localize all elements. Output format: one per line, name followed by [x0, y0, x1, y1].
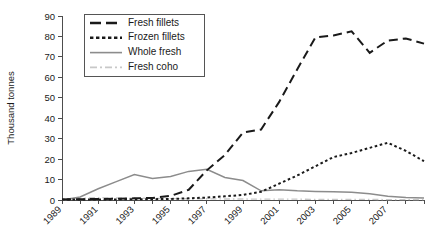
x-tick-label: 1991 — [77, 204, 100, 227]
series-line-whole-fresh — [62, 169, 424, 200]
legend-label: Whole fresh — [128, 46, 181, 57]
y-tick-label: 50 — [44, 92, 55, 103]
x-tick-label: 2007 — [366, 204, 389, 227]
y-tick-label: 40 — [44, 113, 55, 124]
y-tick-label: 10 — [44, 174, 55, 185]
chart-canvas: 0102030405060708090 19891991199319951997… — [0, 0, 432, 248]
y-tick-label: 60 — [44, 72, 55, 83]
y-tick-label: 70 — [44, 51, 55, 62]
y-tick-label: 20 — [44, 154, 55, 165]
y-axis-ticks: 0102030405060708090 — [44, 11, 62, 206]
legend-label: Fresh fillets — [128, 17, 179, 28]
chart-legend: Fresh filletsFrozen filletsWhole freshFr… — [84, 14, 204, 76]
x-tick-label: 1993 — [113, 204, 136, 227]
x-axis-ticks: 1989199119931995199719992001200320052007 — [41, 200, 424, 226]
x-tick-label: 1995 — [149, 204, 172, 227]
x-tick-label: 1999 — [222, 204, 245, 227]
y-tick-label: 90 — [44, 11, 55, 22]
x-tick-label: 2001 — [258, 204, 281, 227]
line-chart: 0102030405060708090 19891991199319951997… — [0, 0, 432, 248]
x-tick-label: 1989 — [41, 204, 64, 227]
series-line-frozen-fillets — [62, 143, 424, 200]
x-tick-label: 2005 — [330, 204, 353, 227]
x-tick-label: 1997 — [185, 204, 208, 227]
y-axis-title: Thousand tonnes — [5, 71, 16, 145]
legend-label: Fresh coho — [128, 61, 178, 72]
x-tick-label: 2003 — [294, 204, 317, 227]
y-tick-label: 30 — [44, 133, 55, 144]
legend-label: Frozen fillets — [128, 31, 185, 42]
y-tick-label: 80 — [44, 31, 55, 42]
